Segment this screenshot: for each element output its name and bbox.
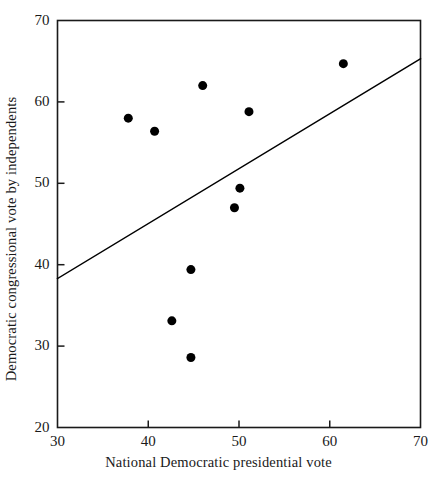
scatter-plot-figure: 203040506070 3040506070 National Democra…: [0, 0, 437, 478]
y-axis-title-text: Democratic congressional vote by indepen…: [2, 0, 20, 478]
y-tick-label: 70: [16, 13, 50, 28]
y-axis-title: Democratic congressional vote by indepen…: [0, 41, 437, 478]
